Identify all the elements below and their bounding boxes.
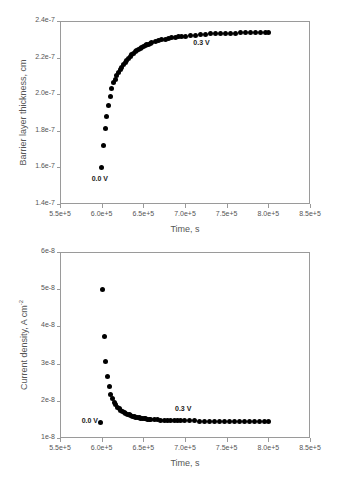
- x-tick-label: 7.0e+5: [165, 210, 205, 217]
- annotation-03v-top: 0.3 V: [193, 39, 209, 46]
- y-tick-mark: [57, 94, 61, 95]
- data-point: [203, 32, 208, 37]
- y-tick-mark: [57, 289, 61, 290]
- data-point: [232, 419, 237, 424]
- x-tick-label: 6.5e+5: [123, 444, 163, 451]
- x-tick-mark: [143, 438, 144, 442]
- x-tick-label: 8.5e+5: [290, 444, 330, 451]
- x-tick-label: 6.5e+5: [123, 210, 163, 217]
- y-tick-mark: [57, 401, 61, 402]
- y-tick-mark: [57, 252, 61, 253]
- x-tick-mark: [268, 438, 269, 442]
- data-point: [100, 287, 105, 292]
- data-point: [106, 103, 111, 108]
- x-tick-label: 7.5e+5: [207, 444, 247, 451]
- data-point: [227, 419, 232, 424]
- data-point: [247, 419, 252, 424]
- data-point: [202, 419, 207, 424]
- x-tick-mark: [310, 204, 311, 208]
- x-tick-label: 6.0e+5: [82, 444, 122, 451]
- data-point: [198, 32, 203, 37]
- y-axis-title-bottom-superscript: -2: [18, 300, 24, 305]
- y-axis-title-bottom: Current density, A cm-2: [18, 252, 29, 438]
- chart-panel-current-density: 1e-82e-83e-84e-85e-86e-85.5e+56.0e+56.5e…: [0, 243, 345, 487]
- data-point: [212, 419, 217, 424]
- data-point: [266, 30, 271, 35]
- data-point: [233, 31, 238, 36]
- x-tick-label: 8.0e+5: [248, 444, 288, 451]
- y-tick-mark: [57, 58, 61, 59]
- data-point: [242, 419, 247, 424]
- data-point: [213, 31, 218, 36]
- data-point: [258, 30, 263, 35]
- x-tick-label: 7.0e+5: [165, 444, 205, 451]
- annotation-03v-bottom: 0.3 V: [175, 405, 191, 412]
- x-tick-mark: [60, 204, 61, 208]
- x-tick-label: 7.5e+5: [207, 210, 247, 217]
- y-axis-title-top: Barrier layer thickness, cm: [18, 21, 28, 204]
- x-tick-label: 5.5e+5: [40, 210, 80, 217]
- data-point: [101, 143, 106, 148]
- data-point: [217, 419, 222, 424]
- data-point: [257, 419, 262, 424]
- data-point: [109, 86, 114, 91]
- x-tick-label: 6.0e+5: [82, 210, 122, 217]
- x-tick-mark: [227, 438, 228, 442]
- x-tick-mark: [185, 204, 186, 208]
- data-point: [183, 34, 188, 39]
- data-point: [108, 94, 113, 99]
- x-tick-mark: [268, 204, 269, 208]
- data-point: [238, 30, 243, 35]
- y-tick-mark: [57, 167, 61, 168]
- data-point: [182, 418, 187, 423]
- data-point: [222, 419, 227, 424]
- y-tick-mark: [57, 364, 61, 365]
- data-point: [193, 33, 198, 38]
- x-tick-label: 5.5e+5: [40, 444, 80, 451]
- x-tick-mark: [102, 438, 103, 442]
- data-point: [237, 419, 242, 424]
- data-point: [252, 419, 257, 424]
- y-tick-mark: [57, 131, 61, 132]
- x-tick-mark: [102, 204, 103, 208]
- y-tick-mark: [57, 21, 61, 22]
- x-tick-mark: [310, 438, 311, 442]
- x-axis-title-bottom: Time, s: [35, 458, 335, 468]
- data-point: [98, 420, 103, 425]
- annotation-0v-top: 0.0 V: [92, 175, 108, 182]
- x-axis-title-top: Time, s: [35, 224, 335, 234]
- data-point: [253, 30, 258, 35]
- x-tick-mark: [185, 438, 186, 442]
- x-tick-mark: [143, 204, 144, 208]
- y-axis-title-bottom-main: Current density, A cm: [19, 305, 29, 390]
- data-point: [107, 384, 112, 389]
- data-point: [188, 33, 193, 38]
- data-point: [266, 419, 271, 424]
- data-point: [102, 334, 107, 339]
- data-point: [228, 31, 233, 36]
- data-point: [223, 31, 228, 36]
- x-tick-label: 8.0e+5: [248, 210, 288, 217]
- chart-panel-barrier-layer-thickness: 1.4e-71.6e-71.8e-72.0e-72.2e-72.4e-75.5e…: [0, 0, 345, 243]
- data-point: [207, 419, 212, 424]
- data-point: [104, 114, 109, 119]
- x-tick-mark: [60, 438, 61, 442]
- data-point: [218, 31, 223, 36]
- x-tick-label: 8.5e+5: [290, 210, 330, 217]
- y-tick-mark: [57, 326, 61, 327]
- annotation-0v-bottom: 0.0 V: [82, 417, 98, 424]
- data-point: [243, 30, 248, 35]
- x-tick-mark: [227, 204, 228, 208]
- data-point: [197, 419, 202, 424]
- data-point: [248, 30, 253, 35]
